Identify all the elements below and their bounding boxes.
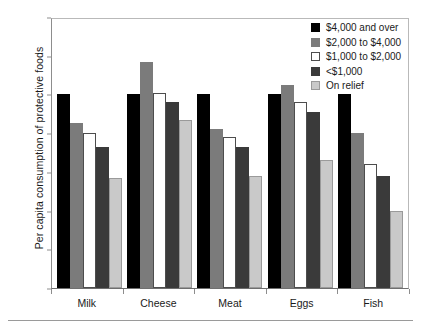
legend-item: $2,000 to $4,000 xyxy=(311,37,401,48)
bar xyxy=(109,178,122,288)
legend-item: $1,000 to $2,000 xyxy=(311,51,401,62)
bar xyxy=(390,211,403,288)
legend-swatch-icon xyxy=(311,38,320,47)
x-axis-tick-mark xyxy=(123,289,124,294)
bar-group xyxy=(197,19,262,288)
bar xyxy=(96,147,109,288)
bar xyxy=(153,93,166,289)
legend-label: On relief xyxy=(326,80,364,91)
bar xyxy=(127,94,140,288)
x-axis-tick-mark xyxy=(51,289,52,294)
bar xyxy=(179,120,192,288)
x-axis-tick-mark xyxy=(194,289,195,294)
footer-rule xyxy=(8,320,413,321)
legend-swatch-icon xyxy=(311,52,320,61)
bar xyxy=(377,176,390,288)
bar xyxy=(210,129,223,288)
x-axis-category-label: Meat xyxy=(218,297,241,309)
bar xyxy=(338,94,351,288)
legend-swatch-icon xyxy=(311,23,320,32)
bar xyxy=(140,62,153,288)
legend-item: $4,000 and over xyxy=(311,22,401,33)
legend-label: $4,000 and over xyxy=(326,22,398,33)
legend-swatch-icon xyxy=(311,67,320,76)
bar xyxy=(57,94,70,288)
bar xyxy=(364,164,377,288)
legend-item: On relief xyxy=(311,80,401,91)
x-axis-tick-mark xyxy=(409,289,410,294)
bar xyxy=(351,133,364,288)
bar xyxy=(70,123,83,288)
bar xyxy=(236,147,249,288)
bar xyxy=(320,160,333,288)
x-axis-tick-mark xyxy=(266,289,267,294)
chart-legend: $4,000 and over$2,000 to $4,000$1,000 to… xyxy=(311,22,401,91)
bar-group xyxy=(57,19,122,288)
bar xyxy=(307,112,320,288)
bar xyxy=(223,137,236,288)
bar xyxy=(294,102,307,288)
bar xyxy=(197,94,210,288)
legend-label: <$1,000 xyxy=(326,66,362,77)
legend-label: $1,000 to $2,000 xyxy=(326,51,401,62)
y-axis-title: Per capita consumption of protective foo… xyxy=(33,23,45,273)
x-axis-category-label: Fish xyxy=(363,297,383,309)
x-axis-category-label: Milk xyxy=(77,297,96,309)
legend-label: $2,000 to $4,000 xyxy=(326,37,401,48)
bar xyxy=(249,176,262,288)
legend-swatch-icon xyxy=(311,81,320,90)
bar xyxy=(281,85,294,288)
bar xyxy=(268,94,281,288)
x-axis-category-label: Cheese xyxy=(140,297,176,309)
bar xyxy=(166,102,179,288)
legend-item: <$1,000 xyxy=(311,66,401,77)
chart-figure: Per capita consumption of protective foo… xyxy=(0,0,421,328)
bar-group xyxy=(127,19,192,288)
x-axis-category-label: Eggs xyxy=(290,297,314,309)
x-axis-tick-mark xyxy=(337,289,338,294)
bar xyxy=(83,133,96,288)
